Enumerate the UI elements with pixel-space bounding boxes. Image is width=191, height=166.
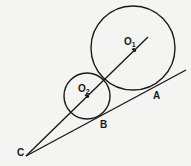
label-b: B (100, 119, 107, 130)
label-o1: O1 (124, 36, 136, 48)
geometry-diagram: O1 O2 A B C (0, 0, 191, 166)
label-c: C (17, 147, 24, 158)
circle-o1 (91, 6, 175, 90)
label-o2: O2 (78, 83, 90, 95)
label-a: A (153, 90, 160, 101)
